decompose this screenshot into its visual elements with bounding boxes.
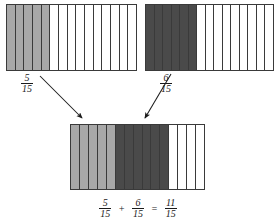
bar-cell-unshaded — [196, 125, 204, 189]
fraction-numerator: 5 — [21, 73, 33, 83]
plus-sign: + — [115, 203, 128, 214]
bar-cell-unshaded — [257, 5, 266, 70]
bar-cell-unshaded — [76, 5, 85, 70]
bar-cell-shaded — [172, 5, 181, 70]
bar-cell-shaded — [98, 125, 107, 189]
bar-cell-shaded — [125, 125, 134, 189]
bar-cell-shaded — [146, 5, 155, 70]
bar-cell-unshaded — [120, 5, 129, 70]
bar-cell-shaded — [42, 5, 51, 70]
bar-cell-unshaded — [102, 5, 111, 70]
second-addend-label: 6 15 — [160, 73, 172, 95]
bar-cell-unshaded — [265, 5, 273, 70]
fraction-addition-diagram: 5 15 6 15 5 15 + 6 15 = 11 — [0, 0, 276, 224]
bar-cell-unshaded — [178, 125, 187, 189]
fraction-numerator: 11 — [165, 198, 177, 208]
bar-cell-shaded — [134, 125, 143, 189]
bar-cell-unshaded — [169, 125, 178, 189]
bar-cell-unshaded — [214, 5, 223, 70]
equals-sign: = — [148, 203, 161, 214]
fraction-6-15: 6 15 — [160, 73, 172, 95]
bar-cell-shaded — [163, 5, 172, 70]
bar-cell-unshaded — [128, 5, 136, 70]
bar-cell-unshaded — [85, 5, 94, 70]
bar-cell-unshaded — [50, 5, 59, 70]
fraction-denominator: 15 — [21, 83, 33, 94]
bar-cell-shaded — [155, 5, 164, 70]
bar-cell-shaded — [89, 125, 98, 189]
fraction-5-15: 5 15 — [21, 73, 33, 95]
bar-cell-shaded — [143, 125, 152, 189]
bar-cell-shaded — [160, 125, 169, 189]
equation-second-fraction: 6 15 — [132, 198, 144, 220]
bar-cell-shaded — [16, 5, 25, 70]
bar-cell-shaded — [151, 125, 160, 189]
bar-cell-shaded — [24, 5, 33, 70]
bar-cell-shaded — [33, 5, 42, 70]
fraction-denominator: 15 — [99, 208, 111, 219]
bar-cell-shaded — [116, 125, 125, 189]
bar-cell-shaded — [80, 125, 89, 189]
bar-cell-shaded — [180, 5, 189, 70]
first-addend-bar — [6, 4, 137, 71]
bar-cell-unshaded — [197, 5, 206, 70]
fraction-denominator: 15 — [165, 208, 177, 219]
bar-cell-unshaded — [59, 5, 68, 70]
first-addend-label: 5 15 — [21, 73, 33, 95]
bar-cell-unshaded — [231, 5, 240, 70]
arrow-from-first-addend — [40, 76, 82, 118]
bar-cell-unshaded — [223, 5, 232, 70]
bar-cell-shaded — [7, 5, 16, 70]
bar-cell-unshaded — [206, 5, 215, 70]
bar-cell-shaded — [189, 5, 198, 70]
equation-first-fraction: 5 15 — [99, 198, 111, 220]
bar-cell-unshaded — [111, 5, 120, 70]
fraction-numerator: 6 — [160, 73, 172, 83]
bar-cell-unshaded — [240, 5, 249, 70]
bar-cell-unshaded — [187, 125, 196, 189]
fraction-denominator: 15 — [132, 208, 144, 219]
second-addend-bar — [145, 4, 274, 71]
sum-bar — [70, 124, 205, 190]
bar-cell-unshaded — [68, 5, 77, 70]
bar-cell-shaded — [71, 125, 80, 189]
bar-cell-shaded — [107, 125, 116, 189]
bar-cell-unshaded — [248, 5, 257, 70]
equation-result-fraction: 11 15 — [165, 198, 177, 220]
fraction-denominator: 15 — [160, 83, 172, 94]
sum-equation: 5 15 + 6 15 = 11 15 — [0, 198, 276, 220]
fraction-numerator: 6 — [132, 198, 144, 208]
fraction-numerator: 5 — [99, 198, 111, 208]
bar-cell-unshaded — [94, 5, 103, 70]
